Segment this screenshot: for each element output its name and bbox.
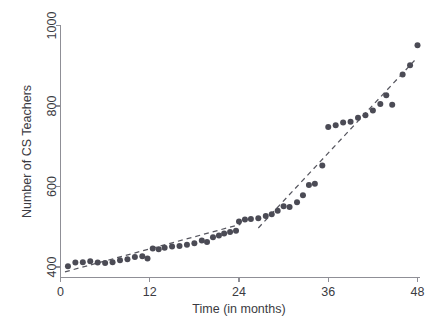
data-point bbox=[184, 242, 190, 248]
data-point bbox=[191, 240, 197, 246]
data-point bbox=[117, 257, 123, 263]
y-tick-label: 600 bbox=[45, 176, 59, 197]
data-point bbox=[362, 112, 368, 118]
data-point bbox=[177, 243, 183, 249]
x-tick-label: 36 bbox=[321, 285, 335, 299]
data-point bbox=[233, 228, 239, 234]
data-point bbox=[269, 211, 275, 217]
data-point bbox=[150, 245, 156, 251]
data-point bbox=[87, 258, 93, 264]
y-tick-label: 400 bbox=[45, 257, 59, 278]
data-point bbox=[263, 213, 269, 219]
data-point bbox=[65, 263, 71, 269]
data-point bbox=[287, 204, 293, 210]
data-point bbox=[139, 253, 145, 259]
data-point bbox=[216, 233, 222, 239]
data-point bbox=[248, 216, 254, 222]
data-point bbox=[407, 62, 413, 68]
data-point bbox=[110, 259, 116, 265]
data-point bbox=[355, 115, 361, 121]
data-point bbox=[400, 72, 406, 78]
data-point bbox=[370, 107, 376, 113]
data-point bbox=[377, 101, 383, 107]
y-tick-label: 1000 bbox=[45, 12, 59, 40]
data-point bbox=[210, 234, 216, 240]
data-point bbox=[415, 42, 421, 48]
data-point bbox=[199, 237, 205, 243]
data-point bbox=[156, 246, 162, 252]
data-point bbox=[275, 208, 281, 214]
y-axis-title: Number of CS Teachers bbox=[20, 85, 34, 218]
chart-figure: 4006008001000012243648Time (in months)Nu… bbox=[0, 0, 443, 325]
data-point bbox=[300, 192, 306, 198]
x-tick-label: 0 bbox=[57, 285, 64, 299]
data-point bbox=[236, 219, 242, 225]
data-point bbox=[325, 124, 331, 130]
data-point bbox=[340, 120, 346, 126]
data-point bbox=[242, 217, 248, 223]
axis-labels-layer: 4006008001000012243648Time (in months)Nu… bbox=[20, 12, 424, 316]
data-point bbox=[145, 256, 151, 262]
data-point bbox=[319, 163, 325, 169]
axes-layer bbox=[56, 25, 420, 283]
y-tick-label: 800 bbox=[45, 96, 59, 117]
x-tick-label: 12 bbox=[143, 285, 157, 299]
x-tick-label: 24 bbox=[232, 285, 246, 299]
data-point bbox=[221, 231, 227, 237]
data-point bbox=[389, 102, 395, 108]
data-point bbox=[124, 256, 130, 262]
data-point bbox=[132, 254, 138, 260]
trend-line-segment-2 bbox=[258, 61, 414, 228]
data-point bbox=[102, 260, 108, 266]
data-point bbox=[348, 119, 354, 125]
data-points-layer bbox=[65, 42, 421, 269]
data-point bbox=[162, 245, 168, 251]
data-point bbox=[255, 215, 261, 221]
trend-line-layer bbox=[65, 61, 415, 272]
data-point bbox=[306, 182, 312, 188]
data-point bbox=[333, 122, 339, 128]
data-point bbox=[281, 203, 287, 209]
data-point bbox=[80, 259, 86, 265]
data-point bbox=[383, 92, 389, 98]
x-axis-title: Time (in months) bbox=[192, 302, 285, 316]
data-point bbox=[227, 229, 233, 235]
data-point bbox=[294, 199, 300, 205]
data-point bbox=[169, 243, 175, 249]
data-point bbox=[312, 181, 318, 187]
data-point bbox=[204, 239, 210, 245]
data-point bbox=[72, 260, 78, 266]
scatter-plot-svg: 4006008001000012243648Time (in months)Nu… bbox=[0, 0, 443, 325]
x-tick-label: 48 bbox=[411, 285, 425, 299]
data-point bbox=[95, 260, 101, 266]
